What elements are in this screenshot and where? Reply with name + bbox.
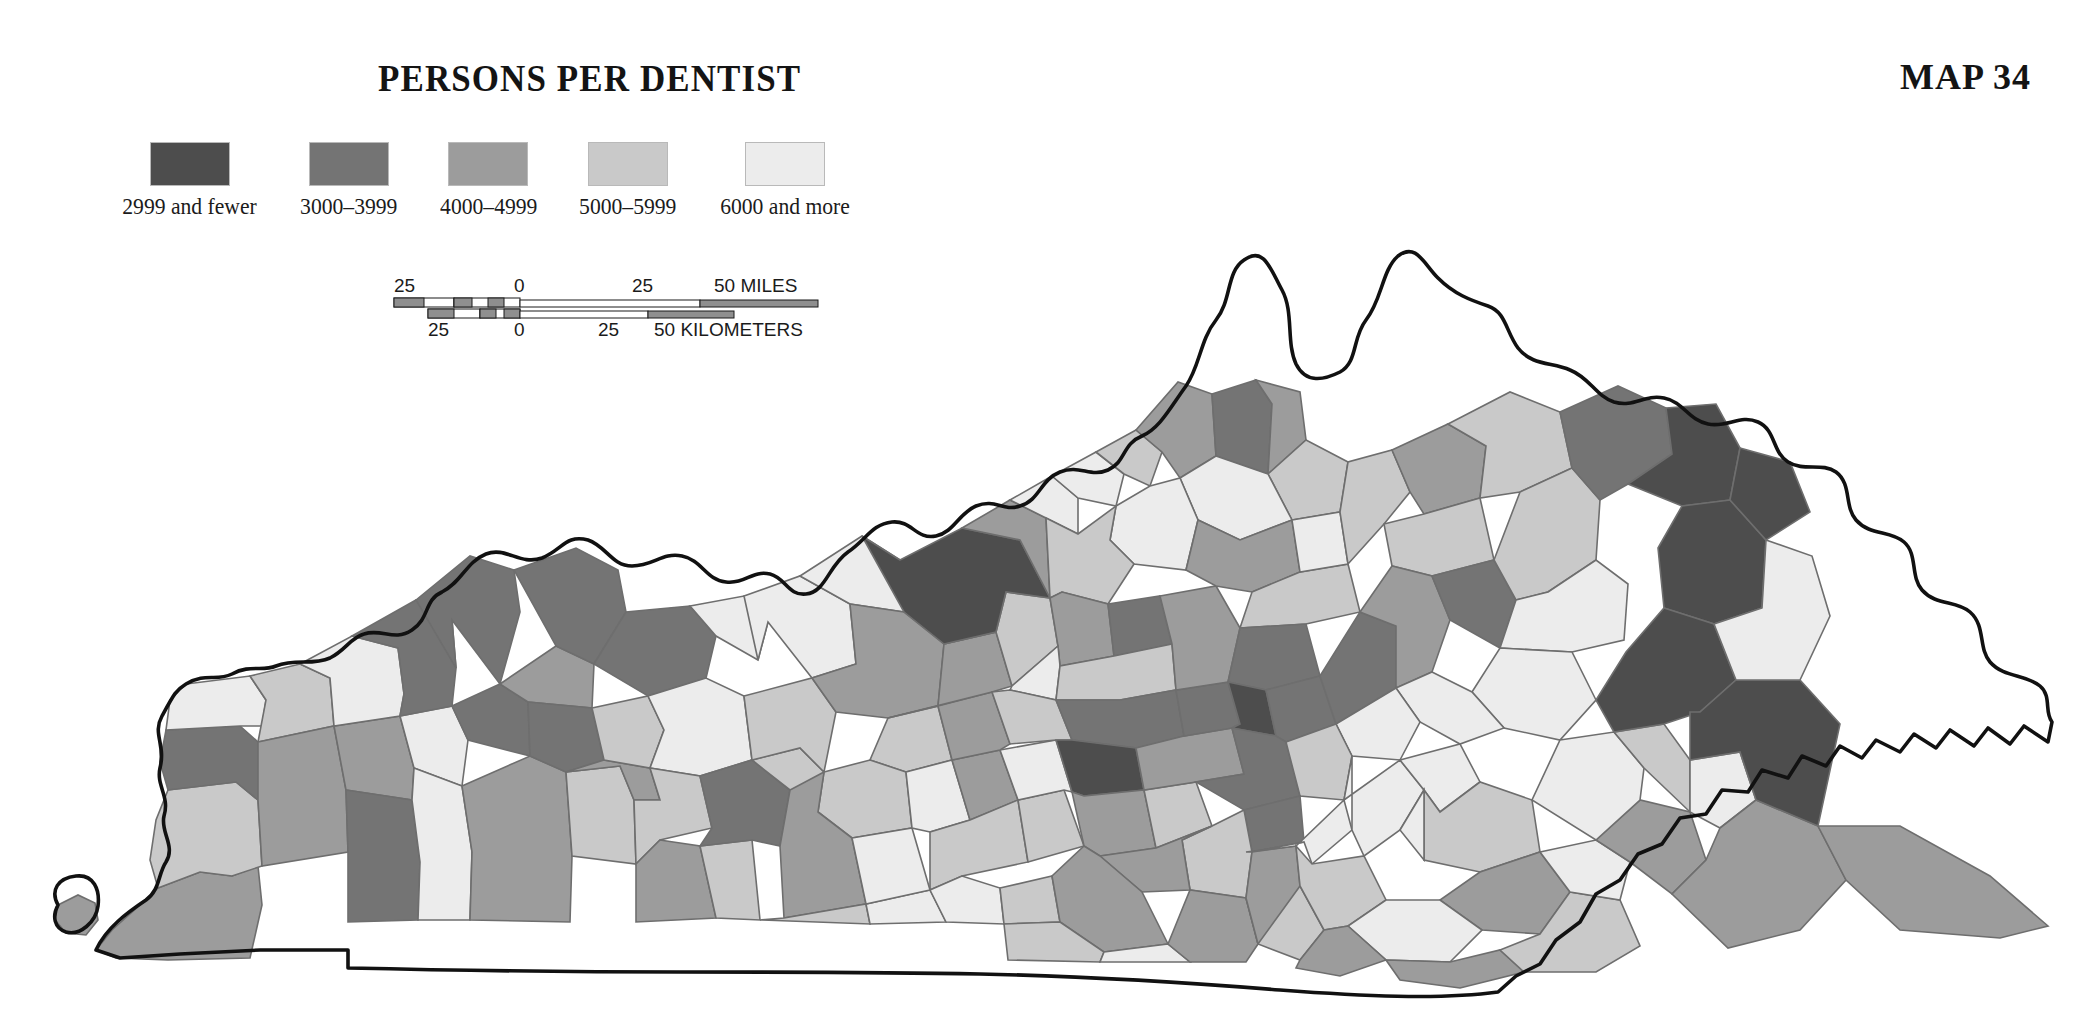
county-clinton[interactable] (1000, 876, 1060, 924)
county-pike[interactable] (1672, 800, 1846, 948)
county-pike-extension[interactable] (1818, 826, 2048, 938)
county-graves[interactable] (258, 726, 348, 866)
county-metcalfe[interactable] (852, 828, 930, 904)
map-page: PERSONS PER DENTIST MAP 34 2999 and fewe… (0, 0, 2093, 1022)
county-ballard[interactable] (166, 676, 266, 730)
county-ohio[interactable] (648, 678, 752, 776)
county-whitley[interactable] (1168, 890, 1258, 962)
county-calloway[interactable] (346, 790, 420, 922)
county-robertson[interactable] (1292, 512, 1348, 572)
county-marshall[interactable] (334, 716, 414, 800)
county-christian[interactable] (462, 756, 572, 922)
kentucky-choropleth-map (0, 0, 2093, 1022)
